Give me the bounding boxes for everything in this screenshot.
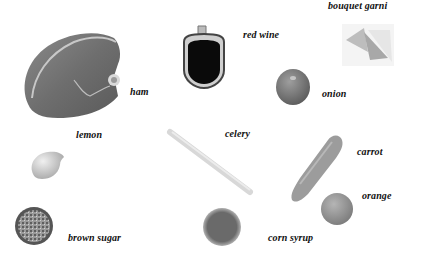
- lemon-label: lemon: [76, 129, 102, 140]
- bouquet-garni-image: [342, 24, 394, 66]
- carrot-label: carrot: [357, 146, 383, 157]
- ham-label: ham: [130, 86, 149, 97]
- orange-label: orange: [362, 190, 392, 201]
- red-wine-image: [180, 24, 228, 92]
- brown-sugar-image: [14, 206, 54, 246]
- orange-image: [320, 192, 354, 226]
- ham-image: [18, 26, 124, 122]
- corn-syrup-image: [202, 207, 242, 247]
- celery-label: celery: [225, 128, 250, 139]
- brown-sugar-label: brown sugar: [68, 232, 121, 243]
- corn-syrup-label: corn syrup: [268, 232, 313, 243]
- onion-image: [275, 68, 311, 106]
- bouquet-garni-label: bouquet garni: [328, 0, 387, 11]
- red-wine-label: red wine: [243, 29, 279, 40]
- onion-label: onion: [322, 88, 346, 99]
- lemon-image: [28, 149, 66, 181]
